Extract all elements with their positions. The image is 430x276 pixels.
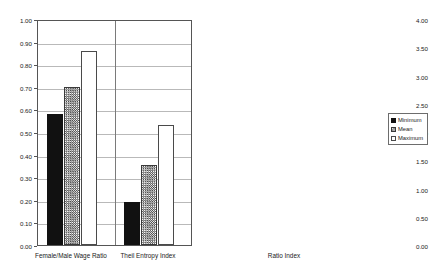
y-tick-mark [34,20,37,21]
y-tick-mark [34,43,37,44]
y-tick-mark [34,65,37,66]
bar-maximum [158,125,174,245]
y-tick-label: 0.60 [0,107,32,114]
y-tick-label: 3.00 [396,73,428,80]
bar-mean [141,165,157,245]
legend-item-mean: Mean [391,125,425,133]
y-tick-label: 0.50 [396,214,428,221]
y-tick-mark [34,201,37,202]
y-tick-mark [34,156,37,157]
legend-swatch-maximum-icon [391,136,396,141]
bar-minimum [47,114,63,245]
x-category-label: Ratio Index [229,252,339,260]
y-tick-label: 0.20 [0,197,32,204]
x-category-label: Theil Entropy Index [93,252,203,260]
bar-minimum [124,202,140,245]
chart-figure: 0.000.100.200.300.400.500.600.700.800.90… [0,0,430,276]
y-tick-label: 0.00 [0,243,32,250]
y-tick-label: 3.50 [396,45,428,52]
y-tick-mark [34,246,37,247]
y-tick-mark [34,110,37,111]
y-tick-mark [34,88,37,89]
legend-swatch-minimum-icon [391,118,396,123]
y-tick-label: 0.70 [0,84,32,91]
legend-item-minimum: Minimum [391,116,425,124]
y-tick-label: 1.00 [396,186,428,193]
y-tick-label: 0.40 [0,152,32,159]
y-tick-label: 0.90 [0,39,32,46]
legend-label-mean: Mean [398,126,413,133]
y-tick-mark [34,178,37,179]
y-tick-mark [34,223,37,224]
y-tick-label: 0.30 [0,175,32,182]
y-tick-label: 0.10 [0,220,32,227]
legend-label-minimum: Minimum [398,117,422,124]
y-tick-label: 0.00 [396,243,428,250]
y-tick-label: 1.50 [396,158,428,165]
bar-maximum [81,51,97,245]
bar-mean [64,87,80,245]
y-tick-label: 1.00 [0,17,32,24]
legend-label-maximum: Maximum [398,135,423,142]
y-tick-mark [34,133,37,134]
legend-item-maximum: Maximum [391,134,425,142]
chart-legend: Minimum Mean Maximum [388,113,428,145]
group-separator [115,21,116,245]
y-tick-label: 2.50 [396,101,428,108]
y-tick-label: 0.50 [0,130,32,137]
chart-panel-left: 0.000.100.200.300.400.500.600.700.800.90… [0,0,205,276]
plot-area-left [37,20,192,246]
y-tick-label: 0.80 [0,62,32,69]
y-tick-label: 4.00 [396,17,428,24]
legend-swatch-mean-icon [391,127,396,132]
